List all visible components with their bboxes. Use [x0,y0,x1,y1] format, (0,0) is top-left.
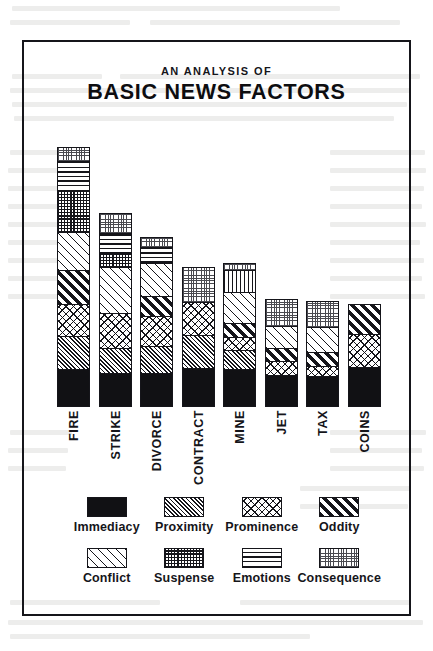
x-label-text: DIVORCE [151,410,163,471]
segment-coins-immediacy [349,368,380,406]
segment-divorce-proximity [141,347,172,375]
bar-fire [57,147,90,407]
x-label-coins: COINS [348,410,381,482]
x-label-strike: STRIKE [99,410,132,482]
legend-item-proximity: Proximity [146,497,224,534]
segment-mine-prominence [224,338,255,351]
segment-fire-emotions [58,162,89,192]
legend-swatch-suspense [164,548,204,568]
segment-fire-prominence [58,305,89,337]
segment-jet-conflict [266,327,297,350]
x-label-contract: CONTRACT [182,410,215,482]
segment-strike-suspense [100,255,131,269]
x-axis-labels: FIRESTRIKEDIVORCECONTRACTMINEJETTAXCOINS [57,410,381,485]
legend-swatch-immediacy [87,497,127,517]
legend-swatch-conflict [87,548,127,568]
segment-fire-oddity [58,271,89,305]
x-label-tax: TAX [306,410,339,482]
x-label-text: CONTRACT [193,410,205,485]
segment-divorce-emotions [141,248,172,264]
x-label-text: MINE [234,410,246,444]
bar-divorce [140,237,173,407]
segment-strike-proximity [100,349,131,375]
bar-coins [348,304,381,407]
chart-title: BASIC NEWS FACTORS [24,79,409,106]
legend-row-2: ConflictSuspenseEmotionsConsequence [68,548,378,585]
x-label-divorce: DIVORCE [140,410,173,482]
x-label-jet: JET [265,410,298,482]
segment-mine-immediacy [224,370,255,406]
segment-fire-consequence [58,148,89,162]
legend-label-immediacy: Immediacy [74,520,140,534]
x-label-text: TAX [317,410,329,436]
segment-tax-conflict [307,328,338,353]
x-label-fire: FIRE [57,410,90,482]
x-label-text: JET [276,410,288,435]
legend-label-suspense: Suspense [154,571,214,585]
segment-strike-prominence [100,314,131,349]
legend-item-emotions: Emotions [223,548,301,585]
chart-title-block: AN ANALYSIS OF BASIC NEWS FACTORS [24,64,409,106]
bar-jet [265,299,298,407]
legend-item-immediacy: Immediacy [68,497,146,534]
segment-coins-prominence [349,335,380,367]
legend-label-conflict: Conflict [83,571,131,585]
segment-jet-oddity [266,349,297,362]
segment-jet-immediacy [266,376,297,406]
segment-tax-immediacy [307,377,338,406]
bar-mine [223,263,256,407]
segment-contract-consequence [183,268,214,303]
legend-swatch-consequence [319,548,359,568]
segment-divorce-oddity [141,297,172,317]
figure-frame: AN ANALYSIS OF BASIC NEWS FACTORS FIREST… [22,40,411,616]
x-label-text: FIRE [68,410,80,441]
legend-swatch-prominence [242,497,282,517]
segment-divorce-immediacy [141,374,172,406]
segment-contract-immediacy [183,369,214,406]
legend-item-consequence: Consequence [301,548,379,585]
legend-item-suspense: Suspense [146,548,224,585]
segment-strike-emotions [100,234,131,255]
legend-item-conflict: Conflict [68,548,146,585]
segment-mine-proximity [224,351,255,371]
segment-tax-prominence [307,367,338,377]
plot-area [57,147,381,407]
segment-strike-conflict [100,268,131,314]
bar-strike [99,213,132,407]
bar-contract [182,267,215,407]
x-label-text: COINS [359,410,371,453]
segment-fire-suspense [58,192,89,234]
segment-mine-consequence [224,264,255,271]
segment-coins-oddity [349,305,380,335]
legend-item-prominence: Prominence [223,497,301,534]
segment-divorce-conflict [141,264,172,298]
segment-tax-oddity [307,353,338,367]
legend-label-oddity: Oddity [319,520,359,534]
segment-jet-prominence [266,362,297,376]
legend-row-1: ImmediacyProximityProminenceOddity [68,497,378,534]
chart-legend: ImmediacyProximityProminenceOddity Confl… [68,497,378,599]
legend-swatch-oddity [319,497,359,517]
legend-label-prominence: Prominence [225,520,298,534]
legend-swatch-emotions [242,548,282,568]
segment-jet-consequence [266,300,297,327]
legend-label-emotions: Emotions [233,571,291,585]
legend-label-consequence: Consequence [297,571,381,585]
segment-contract-prominence [183,303,214,336]
segment-fire-proximity [58,337,89,371]
segment-strike-immediacy [100,374,131,406]
segment-fire-immediacy [58,370,89,406]
segment-mine-oddity [224,324,255,338]
segment-mine-emotions [224,271,255,293]
segment-contract-proximity [183,336,214,369]
x-label-mine: MINE [223,410,256,482]
bar-tax [306,301,339,407]
legend-label-proximity: Proximity [155,520,213,534]
legend-swatch-proximity [164,497,204,517]
segment-strike-consequence [100,214,131,234]
chart-subtitle: AN ANALYSIS OF [24,64,409,78]
segment-divorce-prominence [141,317,172,347]
x-label-text: STRIKE [110,410,122,459]
segment-fire-conflict [58,233,89,271]
segment-divorce-consequence [141,238,172,248]
